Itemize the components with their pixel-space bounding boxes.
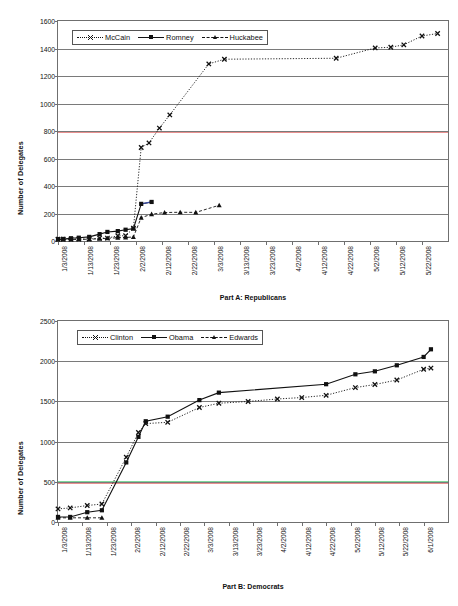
data-point: [136, 435, 140, 439]
data-point: [420, 34, 424, 38]
y-axis-title-a: Number of Delegates: [16, 141, 25, 215]
legend-swatch-mccain-icon: [77, 34, 103, 41]
x-axis-tick-mark: [107, 522, 108, 526]
y-axis-tick-label: 1400: [40, 45, 55, 52]
chart-part-a-republicans: Number of Delegates 02004006008001000120…: [0, 0, 458, 310]
legend-item-edwards[interactable]: Edwards: [201, 333, 258, 342]
data-point: [429, 366, 433, 370]
legend-swatch-romney-icon: [138, 34, 164, 41]
data-point: [157, 126, 161, 130]
series-edwards: [56, 515, 105, 520]
y-axis-title-b: Number of Delegates: [16, 441, 25, 515]
data-point: [147, 141, 151, 145]
legend-item-clinton[interactable]: Clinton: [82, 333, 133, 342]
y-axis-tick-label: 800: [44, 128, 55, 135]
x-axis-tick-mark: [180, 522, 181, 526]
x-axis-tick-label: 2/22/2008: [183, 527, 190, 556]
x-axis-tick-mark: [370, 241, 371, 245]
x-axis-tick-mark: [84, 241, 85, 245]
data-point: [373, 382, 377, 386]
x-axis-tick-mark: [136, 241, 137, 245]
series-line: [58, 349, 431, 517]
x-axis-tick-mark: [82, 522, 83, 526]
chart-part-b-democrats: Number of Delegates 05001000150020002500…: [0, 310, 458, 606]
legend-item-romney[interactable]: Romney: [138, 33, 194, 42]
legend-swatch-obama-icon: [141, 334, 167, 341]
x-axis-tick-label: 6/1/2008: [427, 527, 434, 553]
x-axis-tick-label: 5/22/2008: [402, 527, 409, 556]
legend-label: Clinton: [110, 333, 133, 342]
x-axis-tick-label: 1/23/2008: [113, 246, 120, 275]
legend-swatch-edwards-icon: [201, 334, 227, 341]
legend-swatch-huckabee-icon: [202, 34, 228, 41]
x-axis-tick-label: 4/12/2008: [321, 246, 328, 275]
legend-item-mccain[interactable]: McCain: [77, 33, 130, 42]
x-axis-tick-label: 2/2/2008: [134, 527, 141, 553]
series-line: [58, 202, 152, 239]
data-point: [197, 405, 201, 409]
y-axis-tick-label: 500: [44, 478, 55, 485]
chart-legend[interactable]: McCainRomneyHuckabee: [72, 30, 268, 45]
x-axis-tick-mark: [229, 522, 230, 526]
x-axis-tick-label: 3/23/2008: [256, 527, 263, 556]
x-axis-tick-mark: [344, 241, 345, 245]
data-point: [150, 200, 154, 204]
data-point: [139, 215, 144, 220]
x-axis-tick-mark: [422, 241, 423, 245]
data-point: [217, 203, 222, 208]
y-axis-tick-label: 1200: [40, 73, 55, 80]
x-axis-tick-mark: [277, 522, 278, 526]
legend-item-huckabee[interactable]: Huckabee: [202, 33, 263, 42]
y-axis-tick-label: 600: [44, 155, 55, 162]
y-axis-tick-label: 2500: [40, 318, 55, 325]
figure-sheet: Number of Delegates 02004006008001000120…: [0, 0, 458, 606]
x-axis-tick-label: 1/13/2008: [85, 527, 92, 556]
data-point: [144, 419, 148, 423]
x-axis-tick-label: 3/13/2008: [232, 527, 239, 556]
chart-legend[interactable]: ClintonObamaEdwards: [77, 330, 263, 345]
legend-item-obama[interactable]: Obama: [141, 333, 193, 342]
x-axis-tick-mark: [58, 522, 59, 526]
x-axis-tick-label: 3/3/2008: [217, 246, 224, 272]
x-axis-tick-mark: [302, 522, 303, 526]
data-point: [56, 507, 60, 511]
plot-area-a: 020040060080010001200140016001/3/20081/1…: [57, 20, 449, 242]
x-axis-tick-label: 5/2/2008: [373, 246, 380, 272]
x-axis-tick-label: 3/3/2008: [207, 527, 214, 553]
x-axis-tick-label: 2/12/2008: [159, 527, 166, 556]
x-axis-tick-label: 4/2/2008: [295, 246, 302, 272]
x-axis-tick-mark: [326, 522, 327, 526]
x-axis-tick-label: 5/22/2008: [425, 246, 432, 275]
data-point: [389, 45, 393, 49]
legend-label: Huckabee: [230, 33, 263, 42]
plot-area-b: 050010001500200025001/3/20081/13/20081/2…: [57, 320, 449, 523]
data-point: [193, 210, 198, 215]
data-point: [100, 508, 104, 512]
data-point: [275, 397, 279, 401]
series-line: [58, 34, 438, 240]
legend-label: Obama: [169, 333, 193, 342]
data-point: [168, 113, 172, 117]
x-axis-tick-mark: [266, 241, 267, 245]
x-axis-tick-label: 1/13/2008: [87, 246, 94, 275]
x-axis-tick-label: 1/3/2008: [61, 527, 68, 553]
data-point: [165, 420, 169, 424]
x-axis-tick-label: 2/12/2008: [165, 246, 172, 275]
data-point: [124, 460, 128, 464]
x-axis-tick-label: 4/12/2008: [305, 527, 312, 556]
x-axis-tick-mark: [351, 522, 352, 526]
legend-label: Edwards: [229, 333, 258, 342]
x-axis-tick-mark: [292, 241, 293, 245]
series-mccain: [56, 31, 440, 241]
legend-swatch-clinton-icon: [82, 334, 108, 341]
data-point: [116, 229, 120, 233]
data-point: [435, 31, 439, 35]
data-point: [105, 230, 109, 234]
series-obama: [56, 347, 433, 519]
x-axis-tick-label: 3/13/2008: [243, 246, 250, 275]
y-axis-tick-label: 2000: [40, 358, 55, 365]
data-point: [166, 415, 170, 419]
data-point: [422, 355, 426, 359]
x-axis-tick-label: 1/23/2008: [110, 527, 117, 556]
x-axis-tick-mark: [318, 241, 319, 245]
